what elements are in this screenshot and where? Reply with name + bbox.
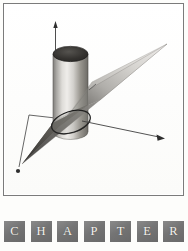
chapter-letter-tile: E: [137, 221, 158, 242]
illustration-frame: [3, 3, 184, 196]
chapter-word-strip: C H A P T E R: [0, 221, 188, 245]
chapter-letter: C: [10, 225, 18, 238]
chapter-letter-tile: A: [57, 221, 78, 242]
chapter-letter: R: [169, 225, 177, 238]
chapter-letter: H: [36, 225, 45, 238]
chapter-opener-page: C H A P T E R: [0, 0, 188, 251]
chapter-letter-tile: P: [84, 221, 105, 242]
chapter-letter-tile: R: [163, 221, 184, 242]
chapter-letter: E: [143, 225, 151, 238]
chapter-letter: T: [117, 225, 125, 238]
chapter-letter: A: [63, 225, 72, 238]
chapter-letter-tile: T: [110, 221, 131, 242]
chapter-letter: P: [91, 225, 98, 238]
chapter-letter-tile: C: [4, 221, 25, 242]
chapter-letter-tile: H: [31, 221, 52, 242]
conic-section-illustration: [4, 4, 183, 195]
